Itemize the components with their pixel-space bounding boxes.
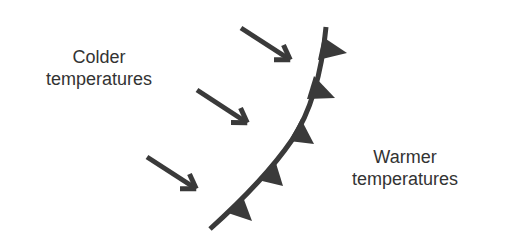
- colder-temperatures-label: Colder temperatures: [28, 46, 170, 90]
- front-triangle-icon: [289, 119, 314, 144]
- colder-label-line1: Colder: [28, 46, 170, 68]
- warmer-label-line2: temperatures: [334, 168, 476, 190]
- front-triangle-icon: [318, 37, 347, 60]
- warmer-label-line1: Warmer: [334, 146, 476, 168]
- front-graphic: [0, 0, 524, 251]
- arrow-icon: [241, 28, 290, 60]
- cold-front-diagram: Colder temperatures Warmer temperatures: [0, 0, 524, 251]
- arrow-icon: [147, 157, 196, 189]
- front-triangle-icon: [258, 160, 283, 186]
- warmer-temperatures-label: Warmer temperatures: [334, 146, 476, 190]
- colder-label-line2: temperatures: [28, 68, 170, 90]
- arrow-icon: [197, 90, 247, 123]
- cold-front-line: [210, 27, 326, 229]
- front-triangle-icon: [307, 76, 335, 99]
